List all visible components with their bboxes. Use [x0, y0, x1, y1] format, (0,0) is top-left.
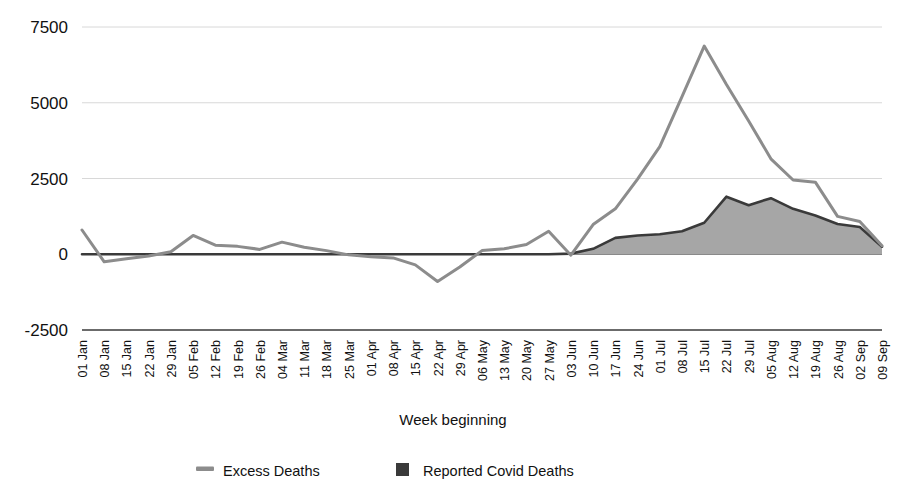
- x-axis-tick-labels: 01 Jan08 Jan15 Jan22 Jan29 Jan05 Feb12 F…: [76, 339, 890, 381]
- x-axis-tick-label: 05 Feb: [187, 340, 201, 379]
- y-axis-tick-labels: 7500500025000-2500: [25, 18, 68, 340]
- x-axis-tick-label: 01 Jul: [654, 340, 668, 373]
- chart-legend: Excess DeathsReported Covid Deaths: [196, 463, 574, 479]
- y-axis-tick-label: 2500: [30, 170, 68, 189]
- x-axis-tick-label: 03 Jun: [565, 340, 579, 378]
- x-axis-tick-label: 29 Apr: [454, 340, 468, 376]
- x-axis-tick-label: 20 May: [520, 339, 534, 381]
- x-axis-tick-label: 22 Jul: [720, 340, 734, 373]
- x-axis-tick-label: 01 Jan: [76, 340, 90, 378]
- gridlines: [82, 27, 882, 330]
- x-axis-tick-label: 04 Mar: [276, 340, 290, 379]
- x-axis-tick-label: 25 Mar: [343, 340, 357, 379]
- x-axis-title: Week beginning: [399, 411, 506, 428]
- chart-canvas: 7500500025000-2500 01 Jan08 Jan15 Jan22 …: [0, 0, 906, 503]
- y-axis-tick-label: 7500: [30, 18, 68, 37]
- x-axis-tick-label: 24 Jun: [632, 340, 646, 378]
- excess-deaths-chart: 7500500025000-2500 01 Jan08 Jan15 Jan22 …: [0, 0, 906, 503]
- x-axis-tick-label: 22 Apr: [432, 340, 446, 376]
- y-axis-tick-label: 0: [59, 245, 68, 264]
- x-axis-tick-label: 02 Sep: [854, 340, 868, 380]
- legend-swatch-reported-covid-deaths: [396, 463, 409, 476]
- x-axis-tick-label: 06 May: [476, 339, 490, 381]
- x-axis-tick-label: 10 Jun: [587, 340, 601, 378]
- x-axis-tick-label: 15 Jul: [698, 340, 712, 373]
- x-axis-tick-label: 27 May: [543, 339, 557, 381]
- x-axis-tick-label: 18 Mar: [320, 340, 334, 379]
- legend-label: Excess Deaths: [223, 463, 320, 479]
- x-axis-title-label: Week beginning: [399, 411, 506, 428]
- x-axis-tick-label: 29 Jan: [165, 340, 179, 378]
- x-axis-tick-label: 19 Feb: [232, 340, 246, 379]
- x-axis-tick-label: 12 Aug: [787, 340, 801, 379]
- legend-label: Reported Covid Deaths: [423, 463, 574, 479]
- x-axis-tick-label: 15 Apr: [409, 340, 423, 376]
- x-axis-tick-label: 19 Aug: [809, 340, 823, 379]
- x-axis-tick-label: 22 Jan: [143, 340, 157, 378]
- x-axis-tick-label: 17 Jun: [609, 340, 623, 378]
- legend-swatch-excess-deaths: [196, 467, 214, 472]
- x-axis-tick-label: 26 Aug: [832, 340, 846, 379]
- covid-deaths-area-fill: [82, 197, 882, 255]
- x-axis-tick-label: 13 May: [498, 339, 512, 381]
- x-axis-tick-label: 08 Jan: [98, 340, 112, 378]
- x-axis-tick-label: 09 Sep: [876, 340, 890, 380]
- y-axis-tick-label: 5000: [30, 94, 68, 113]
- x-axis-tick-label: 15 Jan: [120, 340, 134, 378]
- x-axis-tick-label: 11 Mar: [298, 340, 312, 378]
- x-axis-tick-label: 12 Feb: [209, 340, 223, 379]
- x-axis-tick-label: 29 Jul: [743, 340, 757, 373]
- x-axis-tick-label: 05 Aug: [765, 340, 779, 379]
- x-axis-tick-label: 26 Feb: [254, 340, 268, 379]
- reported-covid-deaths-area: [82, 197, 882, 255]
- x-axis-tick-label: 01 Apr: [365, 340, 379, 376]
- x-axis-tick-label: 08 Jul: [676, 340, 690, 373]
- x-axis-tick-label: 08 Apr: [387, 340, 401, 376]
- y-axis-tick-label: -2500: [25, 321, 68, 340]
